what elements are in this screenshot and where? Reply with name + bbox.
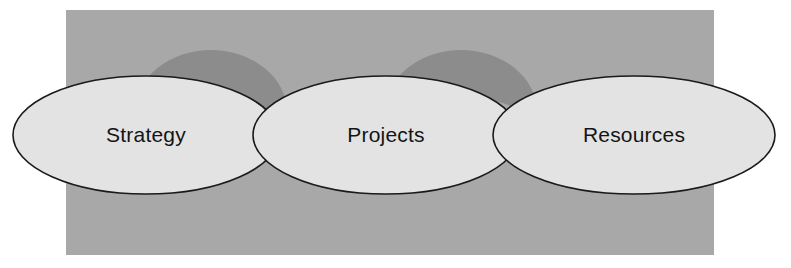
node-projects[interactable]: Projects bbox=[253, 76, 519, 194]
node-projects-label: Projects bbox=[347, 123, 424, 146]
node-strategy[interactable]: Strategy bbox=[13, 76, 279, 194]
node-strategy-label: Strategy bbox=[106, 123, 186, 146]
node-resources-label: Resources bbox=[583, 123, 685, 146]
flow-diagram: Strategy Projects Resources bbox=[0, 0, 791, 268]
diagram-canvas: Strategy Projects Resources bbox=[0, 0, 791, 268]
node-resources[interactable]: Resources bbox=[493, 76, 775, 194]
